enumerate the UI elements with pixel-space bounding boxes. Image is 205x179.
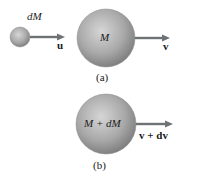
velocity-v-plus-dv-arrow bbox=[136, 121, 173, 128]
large-mass-label: M bbox=[100, 32, 109, 43]
combined-mass-label: M + dM bbox=[84, 118, 121, 129]
small-mass-label: dM bbox=[27, 11, 42, 22]
caption-a: (a) bbox=[96, 72, 108, 83]
velocity-v-plus-dv-label: v + dv bbox=[139, 130, 168, 141]
small-mass-sphere bbox=[10, 27, 30, 47]
caption-b: (b) bbox=[93, 160, 106, 171]
velocity-v-label: v bbox=[163, 41, 169, 52]
velocity-u-label: u bbox=[57, 40, 63, 51]
diagram-canvas bbox=[0, 0, 205, 179]
